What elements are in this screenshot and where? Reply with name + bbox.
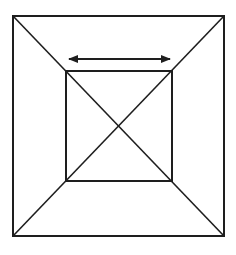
diagram-canvas — [0, 0, 236, 255]
frustum-diagram — [0, 0, 236, 255]
